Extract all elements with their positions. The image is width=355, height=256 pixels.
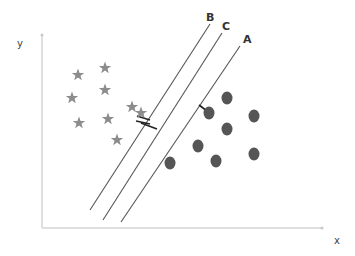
circle-point bbox=[222, 123, 233, 136]
circle-point bbox=[165, 157, 176, 170]
y-axis-label: y bbox=[17, 39, 23, 49]
star-icon bbox=[66, 92, 78, 104]
star-icon bbox=[126, 101, 138, 113]
star-icon bbox=[111, 134, 123, 146]
margin-marks bbox=[136, 105, 207, 129]
x-axis-label: x bbox=[334, 236, 340, 246]
star-icon bbox=[102, 113, 114, 125]
star-icon bbox=[99, 62, 111, 74]
circle-point bbox=[204, 107, 215, 120]
class-circles bbox=[165, 92, 260, 170]
hyperplane-c bbox=[103, 33, 222, 220]
circle-point bbox=[222, 92, 233, 105]
circle-point bbox=[249, 110, 260, 123]
circle-point bbox=[211, 155, 222, 168]
star-icon bbox=[72, 69, 84, 81]
hyperplane-label-c: C bbox=[222, 21, 230, 32]
svm-hyperplane-diagram bbox=[0, 0, 355, 256]
hyperplane-label-b: B bbox=[206, 12, 214, 23]
star-icon bbox=[73, 117, 85, 129]
hyperplanes bbox=[90, 24, 240, 222]
star-icon bbox=[99, 84, 111, 96]
circle-point bbox=[249, 148, 260, 161]
x-axis-arrow-tip bbox=[321, 227, 324, 230]
hyperplane-label-a: A bbox=[243, 34, 252, 45]
class-stars bbox=[66, 62, 147, 146]
y-axis-arrow-tip bbox=[41, 34, 44, 37]
circle-point bbox=[193, 140, 204, 153]
